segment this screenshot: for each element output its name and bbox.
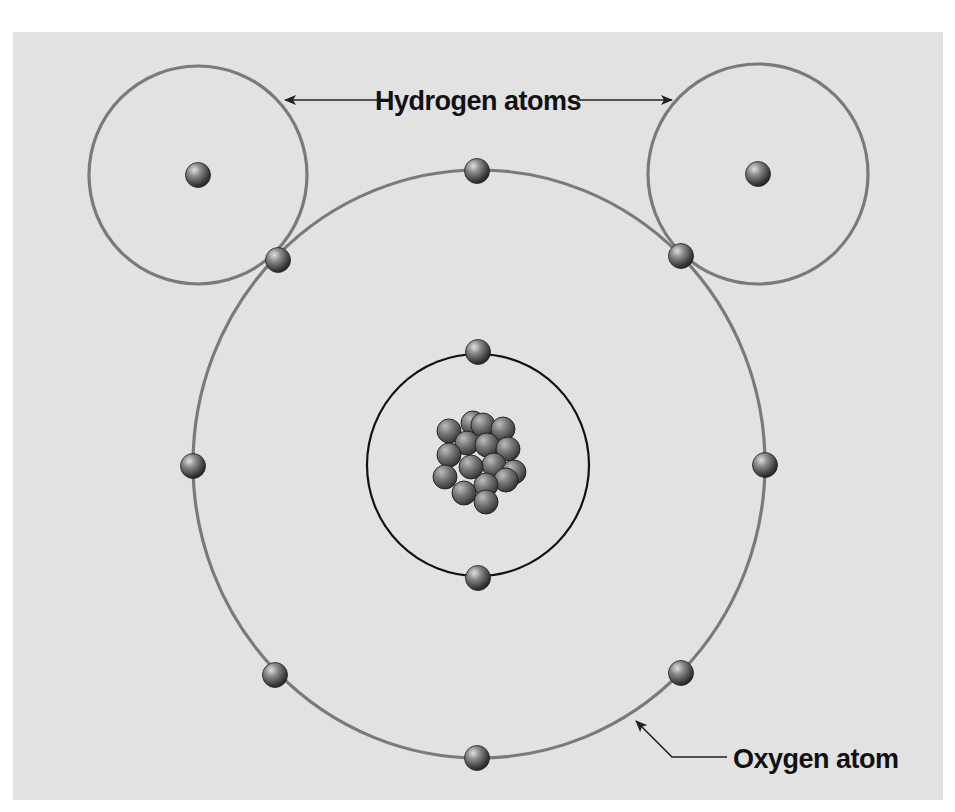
leader-arrow-icon — [636, 721, 727, 757]
oxygen-nucleus — [433, 411, 526, 514]
electron — [263, 663, 288, 688]
hydrogen-right-nucleus — [746, 162, 771, 187]
nucleon — [437, 443, 461, 467]
hydrogen-callout: Hydrogen atoms — [285, 86, 672, 116]
electron — [465, 159, 490, 184]
oxygen-callout: Oxygen atom — [636, 721, 899, 774]
electron — [266, 248, 291, 273]
nucleon — [459, 455, 483, 479]
oxygen-atom-label: Oxygen atom — [733, 744, 899, 774]
hydrogen-atoms-label: Hydrogen atoms — [375, 86, 581, 116]
water-molecule-diagram: Hydrogen atoms Oxygen atom — [0, 0, 955, 812]
hydrogen-left-nucleus — [186, 163, 211, 188]
electron — [181, 454, 206, 479]
electron — [466, 566, 491, 591]
nucleon — [474, 490, 498, 514]
electron — [466, 340, 491, 365]
electron — [669, 244, 694, 269]
electron — [669, 661, 694, 686]
nucleon — [433, 465, 457, 489]
electron — [465, 746, 490, 771]
nucleon — [452, 481, 476, 505]
electron — [753, 453, 778, 478]
